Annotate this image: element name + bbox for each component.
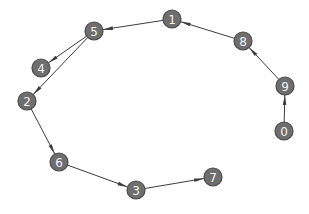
node-7[interactable]: 7 <box>204 168 222 186</box>
node-3[interactable]: 3 <box>127 181 145 199</box>
node-6[interactable]: 6 <box>50 153 68 171</box>
node-label: 1 <box>168 13 176 27</box>
arrowhead-icon <box>194 178 204 182</box>
node-label: 6 <box>55 156 63 170</box>
edge-0-to-9 <box>283 95 287 122</box>
node-label: 9 <box>281 80 289 94</box>
node-label: 0 <box>280 125 288 139</box>
arrowhead-icon <box>181 22 191 27</box>
arrowhead-icon <box>49 144 55 154</box>
edge-8-to-1 <box>181 22 235 39</box>
node-label: 2 <box>23 95 31 109</box>
arrowhead-icon <box>118 182 128 187</box>
node-0[interactable]: 0 <box>275 122 293 140</box>
node-4[interactable]: 4 <box>32 59 50 77</box>
edge-1-to-5 <box>103 20 163 30</box>
nodes-layer: 0123456789 <box>18 10 294 199</box>
node-label: 8 <box>239 35 247 49</box>
node-2[interactable]: 2 <box>18 92 36 110</box>
edge-3-to-7 <box>145 178 204 188</box>
edge-2-to-6 <box>31 109 55 154</box>
node-label: 5 <box>90 25 98 39</box>
arrowhead-icon <box>103 26 113 30</box>
node-1[interactable]: 1 <box>163 10 181 28</box>
network-graph: 0123456789 <box>0 0 309 214</box>
node-9[interactable]: 9 <box>276 77 294 95</box>
edge-9-to-8 <box>249 48 279 80</box>
node-5[interactable]: 5 <box>85 22 103 40</box>
node-label: 3 <box>132 184 140 198</box>
node-label: 7 <box>209 171 217 185</box>
edge-6-to-3 <box>67 165 127 187</box>
arrowhead-icon <box>48 56 57 63</box>
node-8[interactable]: 8 <box>234 32 252 50</box>
node-label: 4 <box>37 62 45 76</box>
arrowhead-icon <box>283 95 287 105</box>
